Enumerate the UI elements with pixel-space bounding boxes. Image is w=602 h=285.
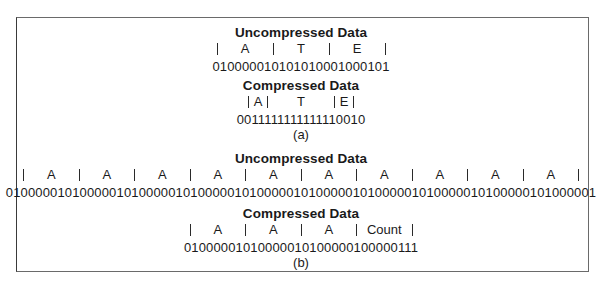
cell-label: A [302,223,357,237]
part-b-compressed-bits: 01000001010000010100000100000111 [0,240,602,255]
cell-label: A [249,95,267,109]
part-b-uncompressed: Uncompressed Data A A A A A A A A A A 01… [0,151,602,200]
part-a-compressed-cells: A T E [248,95,354,109]
cell-label: A [413,168,468,182]
cell-separator [412,224,413,236]
cell-separator [353,96,354,108]
cell-label: A [24,168,79,182]
part-a-uncompressed-title: Uncompressed Data [0,25,602,40]
cell-label: T [274,42,329,56]
part-b-caption: (b) [0,255,602,270]
part-a-uncompressed-bits: 010000010101010001000101 [0,59,602,74]
cell-label: A [218,42,273,56]
part-b-compressed-title: Compressed Data [0,206,602,221]
cell-label: A [246,168,301,182]
part-a-compressed-bits: 0011111111111110010 [0,112,602,127]
part-b-uncompressed-bits: 0100000101000001010000010100000101000001… [0,185,602,200]
cell-label: A [302,168,357,182]
cell-label: A [246,223,301,237]
part-b-compressed-cells: A A A Count [190,223,413,237]
cell-label: A [191,223,246,237]
cell-label: A [191,168,246,182]
part-a-compressed: Compressed Data A T E 001111111111111001… [0,78,602,142]
count-label: Count [357,223,412,237]
cell-label: A [135,168,190,182]
part-a-uncompressed-cells: A T E [217,42,386,56]
cell-label: E [335,95,353,109]
cell-separator [385,43,386,55]
cell-label: A [80,168,135,182]
cell-label: T [268,95,334,109]
part-b-uncompressed-title: Uncompressed Data [0,151,602,166]
part-a-uncompressed: Uncompressed Data A T E 0100000101010100… [0,25,602,74]
part-a-caption: (a) [0,127,602,142]
cell-separator [578,169,579,181]
part-b-uncompressed-cells: A A A A A A A A A A [23,168,579,182]
part-a-compressed-title: Compressed Data [0,78,602,93]
cell-label: A [524,168,579,182]
cell-label: A [468,168,523,182]
cell-label: A [357,168,412,182]
part-b-compressed: Compressed Data A A A Count 010000010100… [0,206,602,270]
cell-label: E [330,42,385,56]
